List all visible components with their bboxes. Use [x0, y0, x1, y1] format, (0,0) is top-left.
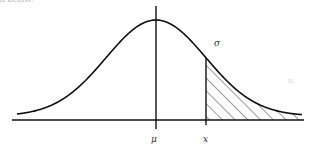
bell-curve: [17, 20, 302, 115]
sigma-label: σ: [214, 38, 220, 48]
mean-label: μ: [151, 134, 157, 144]
x-label: x: [203, 134, 208, 144]
shaded-tail-region: [206, 58, 302, 120]
artifact-mark: n: [288, 76, 293, 85]
normal-distribution-diagram: [0, 0, 311, 156]
